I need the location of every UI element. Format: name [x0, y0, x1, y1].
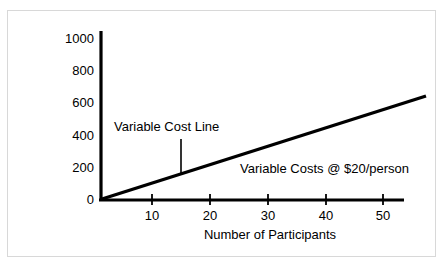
y-tick-label-1000: 1000 [52, 32, 94, 45]
variable-cost-line-annotation: Variable Cost Line [114, 120, 219, 133]
variable-cost-line [102, 96, 426, 199]
x-tick-label-50: 50 [366, 209, 400, 222]
x-tick-label-10: 10 [135, 209, 169, 222]
y-tick-label-400: 400 [52, 129, 94, 142]
x-tick-label-40: 40 [309, 209, 343, 222]
y-tick-label-200: 200 [52, 161, 94, 174]
y-tick-label-0: 0 [52, 193, 94, 206]
x-axis-title: Number of Participants [125, 228, 415, 241]
y-tick-label-600: 600 [52, 96, 94, 109]
variable-cost-rate-annotation: Variable Costs @ $20/person [240, 162, 409, 175]
chart-container: 1000 800 600 400 200 0 10 20 30 40 50 Nu… [0, 0, 445, 268]
x-tick-label-30: 30 [251, 209, 285, 222]
x-tick-label-20: 20 [193, 209, 227, 222]
y-tick-label-800: 800 [52, 64, 94, 77]
